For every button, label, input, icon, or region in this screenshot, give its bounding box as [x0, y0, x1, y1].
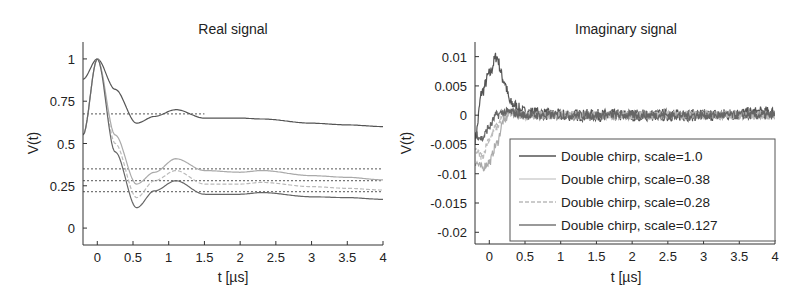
chart-title-imaginary: Imaginary signal [575, 21, 677, 37]
y-tick-label: 1 [68, 52, 75, 67]
y-tick-label: -0.005 [430, 137, 467, 152]
series-line [475, 53, 775, 145]
y-tick-label: 0.5 [57, 137, 75, 152]
x-tick-label: 4 [771, 249, 778, 264]
x-tick-label: 2.5 [659, 249, 677, 264]
y-tick-label: -0.02 [437, 225, 467, 240]
real-signal-chart: Real signal V(t) t [µs] 00.511.522.533.5… [25, 21, 387, 285]
series-line [83, 59, 383, 184]
axes-real: 00.511.522.533.5400.250.50.751 [50, 42, 387, 265]
y-tick-label: 0 [68, 221, 75, 236]
x-tick-label: 1 [165, 250, 172, 265]
legend-label: Double chirp, scale=0.38 [561, 172, 710, 187]
x-axis-label-real: t [µs] [218, 269, 249, 285]
y-tick-label: 0.005 [434, 79, 467, 94]
chart-title-real: Real signal [198, 21, 267, 37]
y-tick-label: -0.01 [437, 167, 467, 182]
x-tick-label: 1.5 [587, 249, 605, 264]
x-axis-label-imaginary: t [µs] [611, 269, 642, 285]
x-tick-label: 3.5 [338, 250, 356, 265]
y-tick-label: 0.01 [442, 50, 467, 65]
x-tick-label: 2.5 [267, 250, 285, 265]
figure: Real signal V(t) t [µs] 00.511.522.533.5… [0, 0, 800, 304]
legend-label: Double chirp, scale=1.0 [561, 149, 702, 164]
x-tick-label: 0.5 [124, 250, 142, 265]
x-tick-label: 1 [557, 249, 564, 264]
x-tick-label: 2 [237, 250, 244, 265]
y-tick-label: 0.25 [50, 179, 75, 194]
series-line [83, 59, 383, 127]
y-tick-label: 0.75 [50, 94, 75, 109]
x-tick-label: 3.5 [730, 249, 748, 264]
x-tick-label: 0.5 [516, 249, 534, 264]
legend: Double chirp, scale=1.0 Double chirp, sc… [510, 139, 775, 241]
y-tick-label: 0 [460, 108, 467, 123]
legend-label: Double chirp, scale=0.127 [561, 218, 717, 233]
y-tick-label: -0.015 [430, 196, 467, 211]
x-tick-label: 1.5 [195, 250, 213, 265]
plot-area-real [83, 59, 383, 208]
x-tick-label: 0 [486, 249, 493, 264]
series-line [83, 59, 383, 207]
x-tick-label: 2 [629, 249, 636, 264]
y-axis-label-imaginary: V(t) [398, 132, 414, 155]
y-axis-label-real: V(t) [25, 132, 41, 155]
x-tick-label: 0 [94, 250, 101, 265]
legend-label: Double chirp, scale=0.28 [561, 195, 710, 210]
x-tick-label: 3 [700, 249, 707, 264]
x-tick-label: 4 [379, 250, 386, 265]
imaginary-signal-chart: Imaginary signal V(t) t [µs] 00.511.522.… [398, 21, 779, 285]
x-tick-label: 3 [308, 250, 315, 265]
